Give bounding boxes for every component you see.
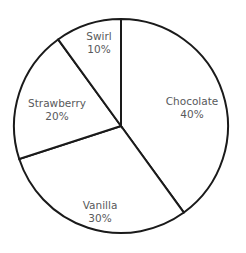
pie-chart-canvas (0, 0, 246, 253)
pie-chart: Chocolate40%Vanilla30%Strawberry20%Swirl… (0, 0, 246, 253)
pie-slices-group (14, 19, 228, 233)
